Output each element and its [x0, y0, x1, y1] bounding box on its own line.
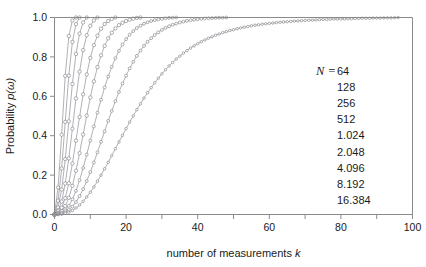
series-marker [125, 127, 128, 130]
series-marker [143, 22, 146, 25]
series-marker [85, 153, 88, 156]
series-marker [132, 115, 135, 118]
series-marker [64, 74, 67, 77]
series-marker [128, 33, 131, 36]
series-marker [64, 204, 67, 207]
series-marker [81, 93, 84, 96]
series-marker [290, 20, 293, 23]
series-marker [182, 20, 185, 23]
figure-container: 0204060801000.00.20.40.60.81.0 N =641282… [0, 0, 426, 267]
series-marker [153, 19, 156, 22]
series-marker [268, 22, 271, 25]
series-marker [196, 18, 199, 21]
series-marker [207, 37, 210, 40]
series-marker [139, 103, 142, 106]
x-tick-label: 100 [404, 221, 422, 233]
series-marker [117, 49, 120, 52]
series-marker [82, 188, 85, 191]
series-marker [71, 205, 74, 208]
series-marker [178, 21, 181, 24]
series-marker [211, 36, 214, 39]
series-marker [85, 180, 88, 183]
series-marker [78, 179, 81, 182]
axis-titles-group: number of measurements kProbability p(ω) [4, 77, 301, 258]
series-marker [150, 37, 153, 40]
series-marker [146, 40, 149, 43]
series-marker [92, 43, 95, 46]
y-tick-label: 0.2 [32, 169, 47, 181]
series-marker [193, 18, 196, 21]
series-marker [103, 22, 106, 25]
series-marker [99, 54, 102, 57]
series-marker [74, 139, 77, 142]
series-marker [107, 161, 110, 164]
series-marker [114, 100, 117, 103]
series-marker [71, 209, 74, 212]
series-marker [75, 207, 78, 210]
y-tick-label: 0.8 [32, 51, 47, 63]
series-marker [157, 18, 160, 21]
series-marker [114, 147, 117, 150]
series-marker [272, 22, 275, 25]
series-marker [189, 19, 192, 22]
series-marker [157, 31, 160, 34]
series-marker [110, 31, 113, 34]
series-marker [103, 44, 106, 47]
series-marker [164, 68, 167, 71]
y-tick-label: 0.0 [32, 208, 47, 220]
series-marker [67, 34, 70, 37]
series-marker [261, 23, 264, 26]
series-marker [60, 188, 63, 191]
series-marker [85, 73, 88, 76]
series-marker [110, 109, 113, 112]
series-marker [225, 30, 228, 33]
series-marker [71, 198, 74, 201]
series-marker [60, 133, 63, 136]
series-marker [175, 22, 178, 25]
series-marker [318, 18, 321, 21]
series-marker [275, 21, 278, 24]
legend-entry-1.024: 1.024 [337, 129, 365, 141]
y-axis-title: Probability p(ω) [4, 77, 16, 154]
series-marker [96, 65, 99, 68]
series-marker [82, 167, 85, 170]
series-marker [89, 24, 92, 27]
x-axis-title: number of measurements k [167, 247, 301, 259]
series-marker [143, 97, 146, 100]
series-marker [67, 157, 70, 160]
series-marker [68, 211, 71, 214]
series-marker [168, 65, 171, 68]
series-marker [96, 151, 99, 154]
series-marker [143, 44, 146, 47]
legend-group: N =641282565121.0242.0484.0968.19216.384 [315, 64, 371, 207]
series-marker [340, 18, 343, 21]
series-marker [160, 28, 163, 31]
series-marker [150, 20, 153, 23]
series-marker [135, 27, 138, 30]
series-marker [107, 75, 110, 78]
series-marker [193, 45, 196, 48]
series-marker [74, 52, 77, 55]
series-marker [85, 34, 88, 37]
y-tick-label: 1.0 [32, 11, 47, 23]
series-marker [132, 60, 135, 63]
y-tick-label: 0.6 [32, 90, 47, 102]
series-marker [71, 40, 74, 43]
series-marker [128, 67, 131, 70]
series-marker [81, 21, 84, 24]
series-marker [247, 25, 250, 28]
series-marker [146, 21, 149, 24]
legend-entry-128: 128 [337, 81, 355, 93]
series-marker [229, 29, 232, 32]
series-marker [74, 169, 77, 172]
series-marker [67, 204, 70, 207]
series-marker [60, 167, 63, 170]
x-tick-label: 20 [120, 221, 132, 233]
series-marker [71, 19, 74, 22]
series-marker [135, 54, 138, 57]
series-2.048 [53, 16, 142, 216]
series-marker [92, 80, 95, 83]
series-marker [315, 19, 318, 22]
series-marker [186, 49, 189, 52]
series-marker [279, 21, 282, 24]
